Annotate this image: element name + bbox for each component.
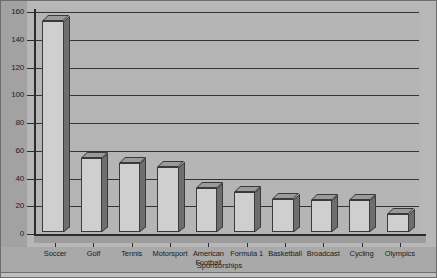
y-tick-label: 40	[16, 175, 25, 183]
bar-front-face	[42, 21, 63, 232]
bar[interactable]	[157, 167, 178, 232]
bar[interactable]	[387, 214, 408, 232]
bar-side-face	[179, 162, 185, 232]
bar-front-face	[387, 214, 408, 232]
bar-side-face	[140, 158, 146, 232]
bar[interactable]	[42, 21, 63, 232]
bar[interactable]	[119, 163, 140, 232]
x-tick-mark	[170, 243, 171, 247]
bar-side-face	[370, 195, 376, 232]
x-tick-mark	[132, 243, 133, 247]
bar-front-face	[81, 158, 102, 232]
x-tick-mark	[285, 243, 286, 247]
bar[interactable]	[311, 200, 332, 232]
x-tick-mark	[400, 243, 401, 247]
bar[interactable]	[272, 199, 293, 232]
y-tick-mark	[27, 40, 34, 41]
x-tick-mark	[362, 243, 363, 247]
y-tick-mark	[27, 95, 34, 96]
gridline	[36, 68, 419, 69]
x-tick-mark	[55, 243, 56, 247]
y-tick-mark	[27, 234, 34, 235]
bar-side-face	[332, 195, 338, 232]
bar-front-face	[157, 167, 178, 232]
bar-front-face	[272, 199, 293, 232]
y-tick-label: 80	[16, 119, 25, 127]
y-tick-mark	[27, 12, 34, 13]
y-tick-mark	[27, 179, 34, 180]
x-tick-label: Olympics	[378, 249, 422, 258]
gridline	[36, 12, 419, 13]
bar-side-face	[294, 194, 300, 232]
y-tick-label: 140	[11, 36, 24, 44]
gridline	[36, 123, 419, 124]
y-tick-label: 160	[11, 8, 24, 16]
x-axis-depth	[34, 236, 426, 243]
bar-front-face	[234, 192, 255, 232]
x-tick-mark	[247, 243, 248, 247]
y-tick-mark	[27, 68, 34, 69]
bar-side-face	[102, 153, 108, 232]
bar[interactable]	[81, 158, 102, 232]
y-axis: 020406080100120140160	[1, 1, 27, 247]
bar-front-face	[311, 200, 332, 232]
chart-bottom-edge	[1, 272, 437, 278]
x-tick-mark	[208, 243, 209, 247]
bar[interactable]	[234, 192, 255, 232]
x-tick-mark	[93, 243, 94, 247]
y-tick-mark	[27, 123, 34, 124]
bar-side-face	[64, 16, 70, 232]
y-tick-label: 100	[11, 91, 24, 99]
y-tick-label: 0	[20, 230, 24, 238]
bar[interactable]	[349, 200, 370, 232]
y-tick-label: 20	[16, 202, 25, 210]
y-tick-mark	[27, 206, 34, 207]
bar-side-face	[255, 187, 261, 232]
gridline	[36, 95, 419, 96]
y-tick-mark	[27, 151, 34, 152]
bar-side-face	[217, 183, 223, 232]
gridline	[36, 40, 419, 41]
bar-front-face	[119, 163, 140, 232]
bar-front-face	[349, 200, 370, 232]
y-tick-label: 120	[11, 64, 24, 72]
bar[interactable]	[196, 188, 217, 232]
bar-chart: 020406080100120140160 Sponsorships Socce…	[0, 0, 437, 278]
x-tick-mark	[323, 243, 324, 247]
bar-front-face	[196, 188, 217, 232]
y-tick-label: 60	[16, 147, 25, 155]
